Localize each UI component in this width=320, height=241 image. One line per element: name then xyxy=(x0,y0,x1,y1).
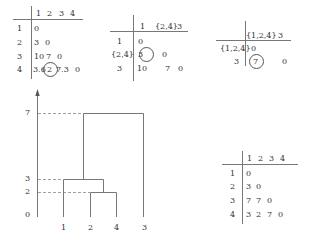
row-header: 4 xyxy=(230,211,235,219)
col-header: 4 xyxy=(280,155,285,163)
y-tick-label: 0 xyxy=(25,211,30,219)
matrix-cell: 7 xyxy=(246,197,251,205)
matrix-cell: 3 xyxy=(246,211,251,219)
matrix-cell: 7 xyxy=(267,211,272,219)
row-header: 1 xyxy=(230,170,235,178)
leaf-label: 3 xyxy=(142,224,147,232)
matrix-cell: 7 xyxy=(256,197,261,205)
row-header: 2 xyxy=(230,183,235,191)
matrix-cell: 0 xyxy=(256,183,261,191)
matrix-cell: 0 xyxy=(267,197,272,205)
col-header: 1 xyxy=(247,155,252,163)
col-header: 3 xyxy=(269,155,274,163)
row-header: 3 xyxy=(230,197,235,205)
matrix-row-divider xyxy=(242,151,243,224)
matrix-cell: 0 xyxy=(246,170,251,178)
leaf-label: 1 xyxy=(61,224,66,232)
matrix-cell: 3 xyxy=(246,183,251,191)
y-tick-label: 7 xyxy=(25,109,30,117)
leaf-label: 2 xyxy=(88,224,93,232)
matrix-cell: 0 xyxy=(278,211,283,219)
matrix-header-divider xyxy=(222,164,298,165)
y-tick-label: 2 xyxy=(25,188,30,196)
leaf-label: 4 xyxy=(114,224,119,232)
y-tick-label: 3 xyxy=(25,175,30,183)
matrix-cell: 2 xyxy=(256,211,261,219)
col-header: 2 xyxy=(258,155,263,163)
